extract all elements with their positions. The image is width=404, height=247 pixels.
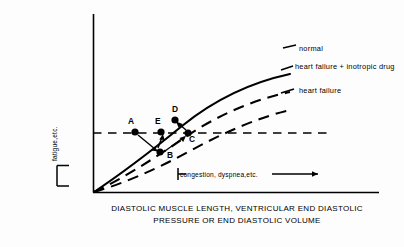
x-axis-label-line-1: DIASTOLIC MUSCLE LENGTH, VENTRICULAR END… — [92, 203, 382, 215]
x-axis-label: DIASTOLIC MUSCLE LENGTH, VENTRICULAR END… — [92, 203, 382, 227]
curve-label-hf-inotropic: heart failure + inotropic drug — [295, 62, 395, 72]
data-point-e[interactable] — [157, 128, 164, 135]
figure-root: SYSTOLIC MUSCLE TENSION - SYSTOLIC VENTR… — [0, 0, 404, 247]
data-point-a[interactable] — [131, 128, 138, 135]
curve-label-normal: normal — [299, 44, 323, 54]
point-label-b: B — [167, 150, 173, 160]
point-label-a: A — [128, 116, 134, 126]
curve-heart-failure — [94, 110, 290, 192]
transition-arrow-a-b — [138, 135, 158, 152]
leader-hf-inotropic — [281, 66, 293, 70]
point-label-c: C — [189, 134, 195, 144]
x-axis-label-line-2: PRESSURE OR END DIASTOLIC VOLUME — [92, 215, 382, 227]
fatigue-annotation-wrap: fatigue,etc. — [49, 93, 69, 183]
data-point-b[interactable] — [156, 148, 163, 155]
congestion-annotation-text: congestion, dyspnea,etc. — [180, 171, 258, 178]
point-label-d: D — [172, 104, 178, 114]
leader-normal — [283, 45, 296, 48]
data-point-d[interactable] — [171, 116, 178, 123]
fatigue-annotation-text: fatigue,etc. — [51, 126, 58, 161]
curve-label-heart-failure: heart failure — [299, 86, 341, 96]
point-label-e: E — [155, 116, 161, 126]
